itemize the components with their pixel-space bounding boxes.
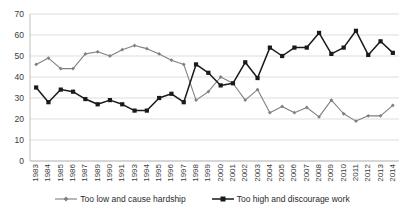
x-axis-tick-label: 1998	[192, 164, 200, 182]
x-axis-tick-label: 1991	[118, 164, 126, 182]
y-axis-tick-label: 10	[2, 136, 24, 145]
x-axis-tick-label: 2007	[303, 164, 311, 182]
series-1	[34, 44, 395, 123]
data-point	[354, 29, 358, 33]
data-point	[132, 109, 136, 113]
series-line	[36, 31, 393, 111]
legend-diamond-marker-icon	[55, 194, 77, 204]
data-point	[34, 63, 38, 67]
x-axis-tick-label: 2010	[340, 164, 348, 182]
x-axis-tick-label: 2008	[315, 164, 323, 182]
data-point	[378, 39, 382, 43]
gridlines	[30, 14, 399, 161]
data-point	[59, 88, 63, 92]
y-axis-tick-label: 70	[2, 10, 24, 19]
data-point	[329, 52, 333, 56]
legend-label: Too high and discourage work	[237, 194, 350, 204]
data-point	[280, 54, 284, 58]
x-axis-tick-label: 1989	[94, 164, 102, 182]
x-axis-tick-label: 2009	[327, 164, 335, 182]
data-point	[255, 76, 259, 80]
axis-lines	[30, 14, 399, 161]
x-axis-tick-label: 2001	[229, 164, 237, 182]
line-chart: 010203040506070 198319841985198619871989…	[0, 0, 405, 216]
data-point	[96, 50, 100, 54]
data-point	[219, 83, 223, 87]
data-point	[268, 46, 272, 50]
data-point	[342, 46, 346, 50]
y-axis-tick-label: 0	[2, 157, 24, 166]
data-point	[292, 46, 296, 50]
data-point	[108, 98, 112, 102]
data-point	[366, 114, 370, 118]
y-axis-tick-label: 20	[2, 115, 24, 124]
legend-square-marker-icon	[212, 194, 234, 204]
x-axis-tick-label: 1994	[143, 164, 151, 182]
data-point	[305, 46, 309, 50]
plot-area	[0, 0, 405, 216]
y-axis-tick-label: 50	[2, 52, 24, 61]
data-point	[108, 54, 112, 58]
x-axis-tick-label: 1995	[155, 164, 163, 182]
x-axis-tick-label: 2012	[364, 164, 372, 182]
x-axis-tick-label: 2003	[254, 164, 262, 182]
data-point	[170, 58, 174, 62]
data-point	[169, 92, 173, 96]
x-axis-tick-label: 1996	[167, 164, 175, 182]
data-point	[157, 52, 161, 56]
x-axis-tick-label: 2000	[217, 164, 225, 182]
series-layer	[34, 29, 395, 123]
data-point	[96, 102, 100, 106]
data-point	[206, 71, 210, 75]
y-axis-tick-label: 40	[2, 73, 24, 82]
x-axis-tick-label: 1999	[204, 164, 212, 182]
data-point	[34, 85, 38, 89]
data-point	[71, 90, 75, 94]
data-point	[46, 100, 50, 104]
data-point	[280, 105, 284, 109]
data-point	[145, 109, 149, 113]
data-point	[231, 81, 235, 85]
data-point	[120, 102, 124, 106]
data-point	[83, 97, 87, 101]
data-point	[157, 96, 161, 100]
chart-legend: Too low and cause hardshipToo high and d…	[0, 194, 405, 204]
y-axis-tick-label: 30	[2, 94, 24, 103]
x-axis-tick-label: 1987	[81, 164, 89, 182]
data-point	[391, 51, 395, 55]
x-axis-tick-label: 2005	[278, 164, 286, 182]
x-axis-tick-label: 1984	[44, 164, 52, 182]
x-axis-tick-label: 2002	[241, 164, 249, 182]
data-point	[145, 47, 149, 51]
legend-label: Too low and cause hardship	[80, 194, 185, 204]
series-line	[36, 46, 393, 122]
data-point	[194, 62, 198, 66]
legend-item-1[interactable]: Too low and cause hardship	[55, 194, 185, 204]
x-axis-tick-label: 1986	[69, 164, 77, 182]
x-axis-tick-label: 2006	[290, 164, 298, 182]
data-point	[366, 53, 370, 57]
series-2	[34, 29, 395, 113]
data-point	[182, 63, 186, 67]
x-axis-tick-label: 2011	[352, 164, 360, 181]
x-axis-tick-label: 1997	[180, 164, 188, 182]
x-axis-tick-label: 2013	[377, 164, 385, 182]
x-axis-tick-label: 1983	[32, 164, 40, 182]
x-axis-tick-label: 1985	[57, 164, 65, 182]
x-axis-tick-label: 2014	[389, 164, 397, 182]
data-point	[317, 31, 321, 35]
data-point	[293, 111, 297, 115]
legend-item-2[interactable]: Too high and discourage work	[212, 194, 350, 204]
y-axis-tick-label: 60	[2, 31, 24, 40]
data-point	[120, 48, 124, 52]
x-axis-tick-label: 2004	[266, 164, 274, 182]
data-point	[182, 100, 186, 104]
x-axis-tick-label: 1993	[131, 164, 139, 182]
data-point	[243, 60, 247, 64]
x-axis-tick-label: 1990	[106, 164, 114, 182]
data-point	[133, 44, 137, 48]
